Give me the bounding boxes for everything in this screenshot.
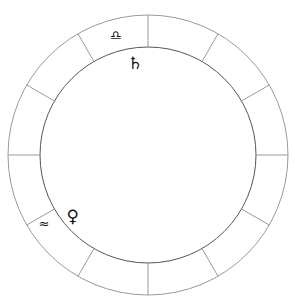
sign-divider-line — [242, 85, 270, 101]
sign-divider-line — [78, 34, 94, 62]
saturn-icon: ♄ — [127, 54, 142, 71]
aquarius-icon: ≈ — [39, 216, 50, 229]
zodiac-wheel — [0, 0, 295, 307]
sign-dividers — [8, 15, 288, 295]
sign-divider-line — [202, 249, 218, 277]
sign-divider-line — [242, 209, 270, 225]
sign-divider-line — [202, 34, 218, 62]
sign-divider-line — [78, 249, 94, 277]
venus-icon: ♀ — [66, 208, 78, 225]
libra-icon: ♎︎ — [110, 29, 122, 42]
inner-ring — [40, 47, 256, 263]
sign-divider-line — [27, 85, 55, 101]
outer-ring — [8, 15, 288, 295]
